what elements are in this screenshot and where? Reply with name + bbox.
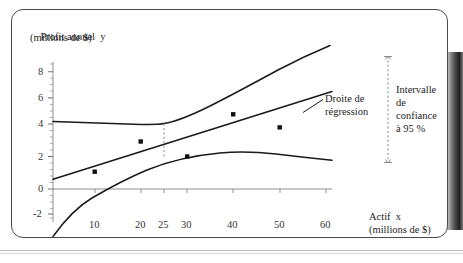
x-tick-label-20: 20: [135, 219, 146, 231]
x-tick-label-30: 30: [181, 219, 192, 231]
x-tick-label-10: 10: [89, 219, 100, 231]
y-tick-label-4: 4: [38, 118, 43, 130]
confidence-interval-label-line-4: à 95 %: [396, 123, 425, 135]
x-tick-label-60: 60: [320, 219, 331, 231]
x-axis-title-line-1: Actif x: [369, 211, 401, 223]
data-point: [93, 170, 97, 174]
y-tick-label-0: 0: [38, 183, 43, 195]
x-tick-label-25: 25: [158, 219, 169, 231]
data-point: [231, 112, 235, 116]
regression-annotation-leader-line: [303, 100, 323, 113]
upper-confidence-bound-curve: [53, 46, 330, 125]
y-axis-title-line-2: (millions de $): [30, 32, 92, 44]
x-axis-ticks: [95, 189, 326, 193]
data-points: [93, 112, 282, 174]
y-tick-label-6: 6: [38, 92, 43, 104]
y-tick-label-2: 2: [38, 151, 43, 163]
data-point: [139, 139, 143, 143]
regression-annotation-line-1: Droite de: [325, 93, 364, 105]
regression-annotation-line-2: régression: [325, 106, 368, 118]
confidence-interval-label-line-1: Intervalle: [396, 84, 436, 96]
y-tick-label-minus-2: -2: [33, 208, 42, 220]
confidence-interval-label-line-2: de: [396, 97, 406, 109]
y-axis-major-ticks: [48, 72, 53, 214]
confidence-interval-bracket: [384, 56, 392, 163]
confidence-interval-label-line-3: confiance: [396, 110, 437, 122]
data-point: [278, 125, 282, 129]
x-tick-label-40: 40: [227, 219, 238, 231]
data-point: [185, 154, 189, 158]
scanned-page: Profit annuel y (millions de $) 8 6 4 2 …: [0, 0, 463, 263]
x-tick-label-50: 50: [274, 219, 285, 231]
x-axis-title-line-2: (millions de $): [369, 224, 431, 236]
regression-line: [53, 92, 332, 180]
y-tick-label-8: 8: [38, 66, 43, 78]
